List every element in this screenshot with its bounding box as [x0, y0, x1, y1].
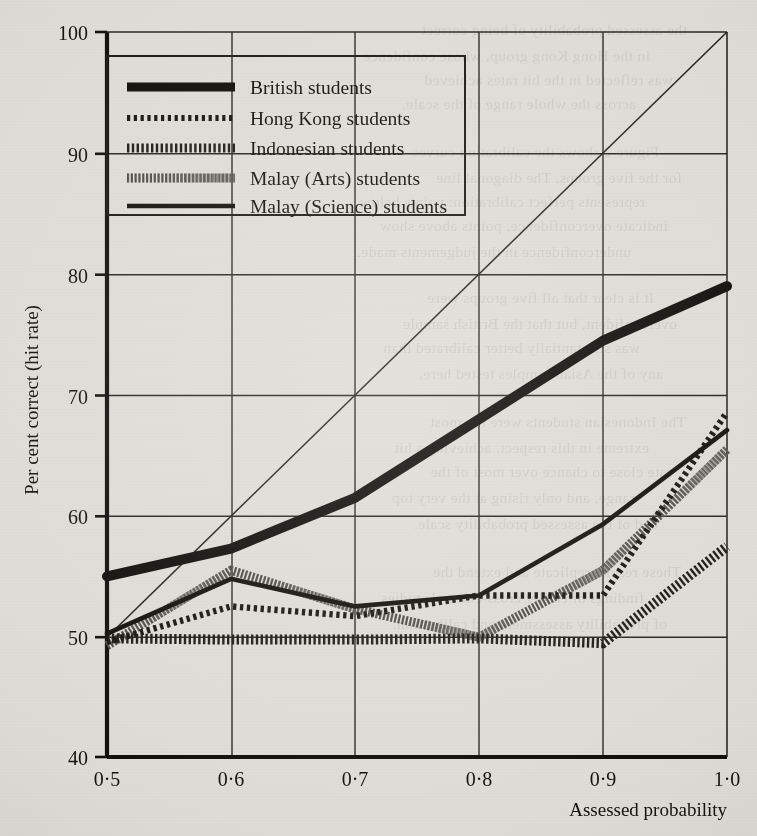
series-line-british	[107, 286, 727, 576]
y-tick-label: 70	[68, 386, 88, 408]
chart-svg: 100 90 80 70 60 50 40 0·5 0·6 0·7 0·8 0·…	[0, 0, 757, 836]
x-tick-label: 0·8	[466, 768, 493, 790]
x-tick-label: 1·0	[714, 768, 741, 790]
calibration-chart-figure: 100 90 80 70 60 50 40 0·5 0·6 0·7 0·8 0·…	[0, 0, 757, 836]
y-tick-label: 40	[68, 747, 88, 769]
x-axis-title: Assessed probability	[569, 799, 727, 820]
y-tick-label: 60	[68, 506, 88, 528]
legend-label-indonesian: Indonesian students	[250, 138, 404, 159]
plot-grid	[107, 32, 727, 757]
y-tick-label: 80	[68, 265, 88, 287]
legend-label-british: British students	[250, 77, 372, 98]
chart-legend: British students Hong Kong students Indo…	[107, 56, 465, 218]
y-tick-label: 90	[68, 144, 88, 166]
y-tick-label: 100	[58, 22, 88, 44]
legend-label-malay-science: Malay (Science) students	[250, 196, 447, 218]
x-tick-label: 0·6	[218, 768, 245, 790]
series-line-hong-kong	[107, 412, 727, 642]
y-tick-labels: 100 90 80 70 60 50 40	[58, 22, 88, 769]
y-tick-label: 50	[68, 627, 88, 649]
legend-label-malay-arts: Malay (Arts) students	[250, 168, 420, 190]
plot-frame	[107, 32, 727, 757]
y-axis-title: Per cent correct (hit rate)	[21, 305, 43, 495]
x-tick-label: 0·7	[342, 768, 369, 790]
x-tick-label: 0·5	[94, 768, 121, 790]
legend-label-hong-kong: Hong Kong students	[250, 108, 410, 129]
x-tick-label: 0·9	[590, 768, 617, 790]
x-tick-labels: 0·5 0·6 0·7 0·8 0·9 1·0	[94, 768, 741, 790]
